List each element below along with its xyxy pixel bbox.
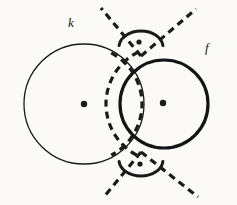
label-k: k <box>68 15 74 30</box>
point-bottom-marker <box>137 161 142 166</box>
point-top-marker <box>136 39 141 44</box>
dashed-ray-group <box>101 8 198 198</box>
point-center-k <box>81 101 87 107</box>
label-group: k f <box>68 15 211 55</box>
label-f: f <box>205 40 211 55</box>
geometric-figure-canvas: k f <box>0 0 237 205</box>
point-center-f <box>160 100 166 106</box>
circle-group <box>24 44 208 164</box>
construction-diagram: k f <box>0 0 237 205</box>
